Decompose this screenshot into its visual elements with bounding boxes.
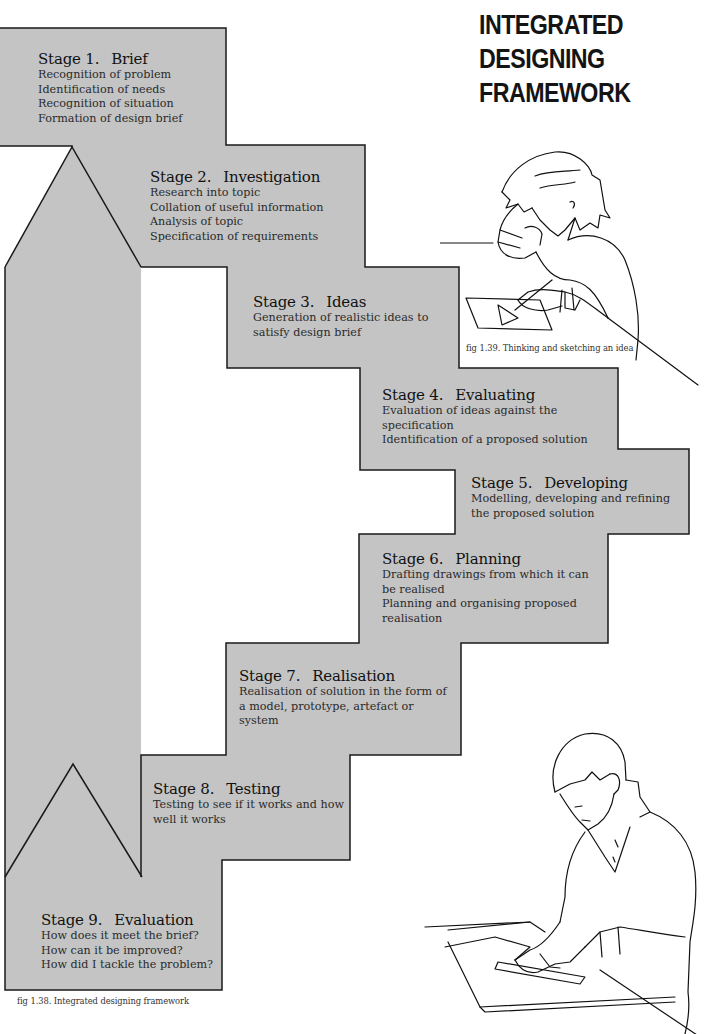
title-line: DESIGNING <box>479 42 630 76</box>
stage-5-developing: Stage 5.Developing Modelling, developing… <box>471 474 670 521</box>
stage-name: Testing <box>226 780 280 798</box>
figure-caption-1-39: fig 1.39. Thinking and sketching an idea <box>466 343 633 353</box>
stage-line: a model, prototype, artefact or <box>239 700 447 715</box>
stage-description: Generation of realistic ideas to satisfy… <box>253 311 428 340</box>
stage-line: realisation <box>382 612 589 627</box>
stage-name: Realisation <box>312 667 395 685</box>
stage-9-evaluation: Stage 9.Evaluation How does it meet the … <box>41 911 213 973</box>
stage-description: Evaluation of ideas against the specific… <box>382 404 588 448</box>
stage-line: Analysis of topic <box>150 215 323 230</box>
stage-8-testing: Stage 8.Testing Testing to see if it wor… <box>153 780 344 827</box>
stage-name: Planning <box>455 550 521 568</box>
stage-line: Specification of requirements <box>150 230 323 245</box>
stage-number: Stage 9. <box>41 911 102 929</box>
stage-line: Formation of design brief <box>38 112 182 127</box>
stage-3-ideas: Stage 3.Ideas Generation of realistic id… <box>253 293 428 340</box>
stage-heading: Stage 8.Testing <box>153 780 344 798</box>
stage-description: Drafting drawings from which it can be r… <box>382 568 589 626</box>
stage-line: Recognition of situation <box>38 97 182 112</box>
stage-line: system <box>239 714 447 729</box>
stage-line: How did I tackle the problem? <box>41 958 213 973</box>
arrow-head-outline <box>0 146 72 147</box>
stage-line: How does it meet the brief? <box>41 929 213 944</box>
stage-heading: Stage 2.Investigation <box>150 168 323 186</box>
stage-number: Stage 1. <box>38 50 99 68</box>
stage-description: Realisation of solution in the form of a… <box>239 685 447 729</box>
stage-number: Stage 7. <box>239 667 300 685</box>
stage-1-brief: Stage 1.Brief Recognition of problem Ide… <box>38 50 182 126</box>
stage-name: Ideas <box>326 293 366 311</box>
stage-description: Research into topic Collation of useful … <box>150 186 323 244</box>
stage-description: Testing to see if it works and how well … <box>153 798 344 827</box>
stage-line: be realised <box>382 583 589 598</box>
stage-line: Evaluation of ideas against the <box>382 404 588 419</box>
page-title: INTEGRATED DESIGNING FRAMEWORK <box>479 8 630 110</box>
stage-line: Modelling, developing and refining <box>471 492 670 507</box>
stage-line: Identification of a proposed solution <box>382 433 588 448</box>
figure-caption-1-38: fig 1.38. Integrated designing framework <box>17 996 189 1006</box>
stage-line: Generation of realistic ideas to <box>253 311 428 326</box>
stage-heading: Stage 7.Realisation <box>239 667 447 685</box>
stage-description: Recognition of problem Identification of… <box>38 68 182 126</box>
stage-number: Stage 8. <box>153 780 214 798</box>
stage-line: satisfy design brief <box>253 326 428 341</box>
stage-name: Evaluation <box>114 911 193 929</box>
stage-7-realisation: Stage 7.Realisation Realisation of solut… <box>239 667 447 729</box>
stage-heading: Stage 1.Brief <box>38 50 182 68</box>
stage-line: Recognition of problem <box>38 68 182 83</box>
stage-description: Modelling, developing and refining the p… <box>471 492 670 521</box>
stage-number: Stage 5. <box>471 474 532 492</box>
stage-6-planning: Stage 6.Planning Drafting drawings from … <box>382 550 589 626</box>
stage-name: Developing <box>544 474 628 492</box>
stage-heading: Stage 3.Ideas <box>253 293 428 311</box>
stage-description: How does it meet the brief? How can it b… <box>41 929 213 973</box>
stage-line: Identification of needs <box>38 83 182 98</box>
stage-number: Stage 2. <box>150 168 211 186</box>
stage-heading: Stage 6.Planning <box>382 550 589 568</box>
stage-line: the proposed solution <box>471 507 670 522</box>
stage-line: specification <box>382 419 588 434</box>
stage-line: Realisation of solution in the form of <box>239 685 447 700</box>
stage-line: Drafting drawings from which it can <box>382 568 589 583</box>
stage-line: Collation of useful information <box>150 201 323 216</box>
drawing-person-illustration <box>420 722 717 1034</box>
stage-4-evaluating: Stage 4.Evaluating Evaluation of ideas a… <box>382 386 588 448</box>
stage-2-investigation: Stage 2.Investigation Research into topi… <box>150 168 323 244</box>
stage-line: Research into topic <box>150 186 323 201</box>
stage-number: Stage 4. <box>382 386 443 404</box>
stage-heading: Stage 9.Evaluation <box>41 911 213 929</box>
stage-line: Planning and organising proposed <box>382 597 589 612</box>
stage-number: Stage 6. <box>382 550 443 568</box>
stage-name: Investigation <box>223 168 320 186</box>
stage-line: How can it be improved? <box>41 944 213 959</box>
title-line: FRAMEWORK <box>479 76 630 110</box>
title-line: INTEGRATED <box>479 8 630 42</box>
stage-name: Brief <box>111 50 147 68</box>
stage-line: Testing to see if it works and how <box>153 798 344 813</box>
stage-line: well it works <box>153 813 344 828</box>
stage-number: Stage 3. <box>253 293 314 311</box>
stage-heading: Stage 5.Developing <box>471 474 670 492</box>
